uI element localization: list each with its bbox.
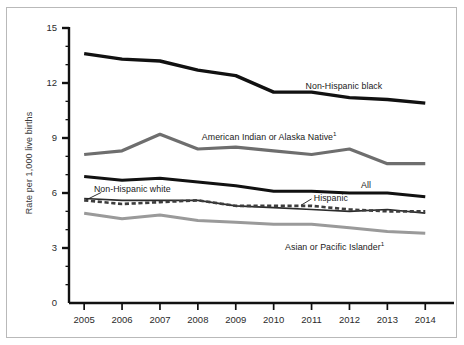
series-label-all: All [361,180,371,190]
x-tick-label: 2013 [367,314,407,325]
chart-figure: Rate per 1,000 live births 03691215 2005… [0,0,464,345]
series-line-non-hispanic-black [84,54,425,103]
y-tick-label: 6 [35,187,57,198]
chart-frame: Rate per 1,000 live births 03691215 2005… [6,7,457,338]
series-label-american-indian-text: American Indian or Alaska Native [202,132,333,142]
y-tick-label: 3 [35,242,57,253]
x-tick-label: 2009 [216,314,256,325]
series-line-asian-or-pacific-islander [84,213,425,233]
x-tick-label: 2006 [102,314,142,325]
x-tick-label: 2014 [405,314,445,325]
series-label-hispanic: Hispanic [314,193,348,203]
x-tick-label: 2012 [329,314,369,325]
footnote-marker-asian-pacific: 1 [381,240,385,247]
chart-axes [62,27,454,310]
footnote-marker-american-indian: 1 [333,130,337,137]
y-tick-label: 12 [35,77,57,88]
x-tick-label: 2011 [292,314,332,325]
x-tick-label: 2005 [64,314,104,325]
x-tick-label: 2008 [178,314,218,325]
chart-plot-area [7,8,458,339]
y-tick-label: 0 [35,297,57,308]
y-tick-label: 15 [35,22,57,33]
x-tick-label: 2010 [254,314,294,325]
series-label-asian-pacific-text: Asian or Pacific Islander [285,242,381,252]
series-label-asian-pacific-islander: Asian or Pacific Islander1 [285,242,384,252]
y-axis-title: Rate per 1,000 live births [24,93,34,233]
y-tick-label: 9 [35,132,57,143]
series-label-non-hispanic-black: Non-Hispanic black [306,81,383,91]
series-label-non-hispanic-white: Non-Hispanic white [94,184,171,194]
series-label-american-indian-alaska-native: American Indian or Alaska Native1 [202,132,337,142]
x-tick-label: 2007 [140,314,180,325]
